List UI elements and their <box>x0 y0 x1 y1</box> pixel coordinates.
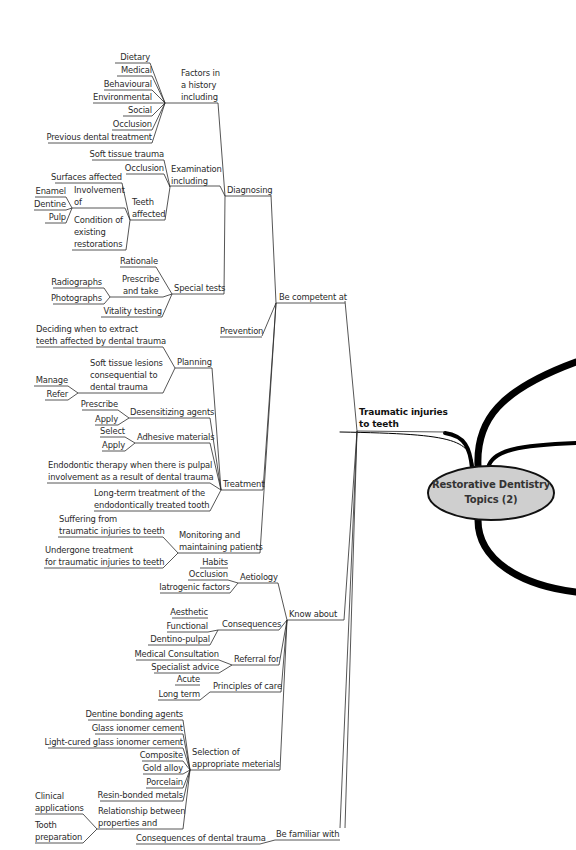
node-know-about[interactable]: Know about <box>289 608 337 620</box>
node-adhesive[interactable]: Adhesive materials <box>137 431 214 443</box>
central-node-title: Restorative Dentistry Topics (2) <box>430 477 552 507</box>
node-special-tests[interactable]: Special tests <box>174 282 225 294</box>
mind-map-connectors <box>0 0 576 850</box>
treatment-endodontic[interactable]: Endodontic therapy when there is pulpal … <box>48 459 213 483</box>
main-branch-label[interactable]: Traumatic injuries to teeth <box>359 406 448 430</box>
familiar-item[interactable]: Consequences of dental trauma <box>136 832 266 844</box>
node-examination[interactable]: Examination including <box>171 163 222 187</box>
principles-item[interactable]: Acute <box>177 673 200 685</box>
involvement-item[interactable]: Enamel <box>36 185 66 197</box>
node-planning[interactable]: Planning <box>177 356 212 368</box>
node-consequences[interactable]: Consequences <box>222 618 281 630</box>
examination-item[interactable]: Soft tissue trauma <box>90 148 164 160</box>
materials-item[interactable]: Gold alloy <box>143 762 183 774</box>
adhesive-item[interactable]: Apply <box>102 439 125 451</box>
teeth-item-surfaces[interactable]: Surfaces affected <box>51 171 122 183</box>
node-teeth-affected[interactable]: Teeth affected <box>132 196 165 220</box>
aetiology-item[interactable]: Occlusion <box>189 568 228 580</box>
soft-tissue-item[interactable]: Manage <box>36 374 68 386</box>
examination-item[interactable]: Occlusion <box>125 162 164 174</box>
history-item[interactable]: Environmental <box>93 91 152 103</box>
node-prevention[interactable]: Prevention <box>220 325 263 337</box>
history-item[interactable]: Dietary <box>120 51 150 63</box>
node-be-competent-at[interactable]: Be competent at <box>279 291 347 303</box>
planning-extract[interactable]: Deciding when to extract teeth affected … <box>36 323 166 347</box>
history-item[interactable]: Previous dental treatment <box>46 131 152 143</box>
materials-item[interactable]: Porcelain <box>146 776 183 788</box>
node-soft-tissue-lesions[interactable]: Soft tissue lesions consequential to den… <box>90 357 163 393</box>
materials-item[interactable]: Resin-bonded metals <box>98 789 183 801</box>
soft-tissue-item[interactable]: Refer <box>47 388 68 400</box>
node-relationship[interactable]: Relationship between properties and <box>98 805 185 829</box>
node-aetiology[interactable]: Aetiology <box>240 571 278 583</box>
adhesive-item[interactable]: Select <box>100 425 125 437</box>
monitoring-suffering[interactable]: Suffering from traumatic injuries to tee… <box>59 513 165 537</box>
node-referral[interactable]: Referral for <box>234 653 279 665</box>
node-prescribe-take[interactable]: Prescribe and take <box>122 273 159 297</box>
desensitizing-item[interactable]: Apply <box>95 413 118 425</box>
consequences-item[interactable]: Dentino-pulpal <box>150 633 210 645</box>
aetiology-item[interactable]: Habits <box>202 556 228 568</box>
referral-item[interactable]: Specialist advice <box>151 661 219 673</box>
consequences-item[interactable]: Functional <box>166 620 208 632</box>
materials-item[interactable]: Dentine bonding agents <box>85 708 183 720</box>
node-condition-restorations[interactable]: Condition of existing restorations <box>74 214 123 250</box>
consequences-item[interactable]: Aesthetic <box>170 606 208 618</box>
node-desensitizing[interactable]: Desensitizing agents <box>130 406 214 418</box>
history-item[interactable]: Occlusion <box>113 118 152 130</box>
node-selection-materials[interactable]: Selection of appropriate meterials <box>192 746 280 770</box>
node-be-familiar-with[interactable]: Be familiar with <box>276 828 339 840</box>
node-monitoring[interactable]: Monitoring and maintaining patients <box>179 529 263 553</box>
monitoring-undergone[interactable]: Undergone treatment for traumatic injuri… <box>45 544 164 568</box>
relationship-clinical[interactable]: Clinical applications <box>35 790 84 814</box>
prescribe-item[interactable]: Photographs <box>51 292 102 304</box>
history-item[interactable]: Social <box>128 104 152 116</box>
principles-item[interactable]: Long term <box>159 688 200 700</box>
prescribe-item[interactable]: Radiographs <box>51 276 102 288</box>
materials-item[interactable]: Composite <box>140 749 183 761</box>
materials-item[interactable]: Glass ionomer cement <box>92 722 183 734</box>
node-principles-of-care[interactable]: Principles of care <box>213 680 282 692</box>
node-treatment[interactable]: Treatment <box>223 478 264 490</box>
aetiology-item[interactable]: Iatrogenic factors <box>159 581 230 593</box>
node-history-factors[interactable]: Factors in a history including <box>181 67 220 103</box>
desensitizing-item[interactable]: Prescribe <box>81 398 118 410</box>
special-tests-item[interactable]: Rationale <box>120 255 158 267</box>
treatment-long-term[interactable]: Long-term treatment of the endodonticall… <box>94 487 209 511</box>
relationship-tooth-prep[interactable]: Tooth preparation <box>35 819 82 843</box>
history-item[interactable]: Behavioural <box>104 78 152 90</box>
node-diagnosing[interactable]: Diagnosing <box>227 184 272 196</box>
involvement-item[interactable]: Dentine <box>34 198 66 210</box>
node-involvement[interactable]: Involvement of <box>74 184 125 208</box>
referral-item[interactable]: Medical Consultation <box>135 648 219 660</box>
special-tests-item[interactable]: Vitality testing <box>104 305 162 317</box>
materials-item[interactable]: Light-cured glass ionomer cement <box>44 736 183 748</box>
history-item[interactable]: Medical <box>121 64 152 76</box>
involvement-item[interactable]: Pulp <box>49 211 66 223</box>
